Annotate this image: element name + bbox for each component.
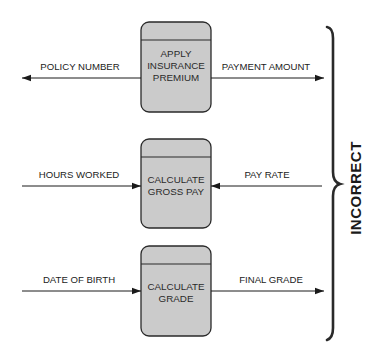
process-calculate-grade: CALCULATE GRADE — [141, 246, 211, 336]
flow-policy-number: POLICY NUMBER — [22, 61, 141, 78]
flow-label: FINAL GRADE — [239, 274, 303, 285]
process-label-line: CALCULATE — [148, 281, 205, 292]
process-label-line: PREMIUM — [153, 72, 199, 83]
flow-final-grade: FINAL GRADE — [211, 274, 324, 291]
process-label-line: GROSS PAY — [148, 186, 205, 197]
process-calculate-gross-pay: CALCULATE GROSS PAY — [141, 139, 211, 228]
dfd-diagram: APPLY INSURANCE PREMIUM POLICY NUMBER PA… — [0, 0, 374, 352]
flow-hours-worked: HOURS WORKED — [22, 169, 141, 186]
flow-label: POLICY NUMBER — [40, 61, 119, 72]
process-label-line: CALCULATE — [148, 174, 205, 185]
bracket-label: INCORRECT — [347, 141, 364, 235]
flow-label: PAY RATE — [244, 169, 289, 180]
process-apply-insurance-premium: APPLY INSURANCE PREMIUM — [141, 22, 211, 112]
process-label-line: GRADE — [159, 293, 194, 304]
flow-label: HOURS WORKED — [39, 169, 120, 180]
flow-date-of-birth: DATE OF BIRTH — [22, 274, 141, 291]
process-label-line: APPLY — [161, 48, 192, 59]
flow-pay-rate: PAY RATE — [211, 169, 322, 186]
flow-label: PAYMENT AMOUNT — [222, 61, 311, 72]
process-label-line: INSURANCE — [147, 60, 205, 71]
flow-label: DATE OF BIRTH — [43, 274, 115, 285]
curly-brace-icon — [327, 27, 340, 340]
flow-payment-amount: PAYMENT AMOUNT — [211, 61, 324, 78]
